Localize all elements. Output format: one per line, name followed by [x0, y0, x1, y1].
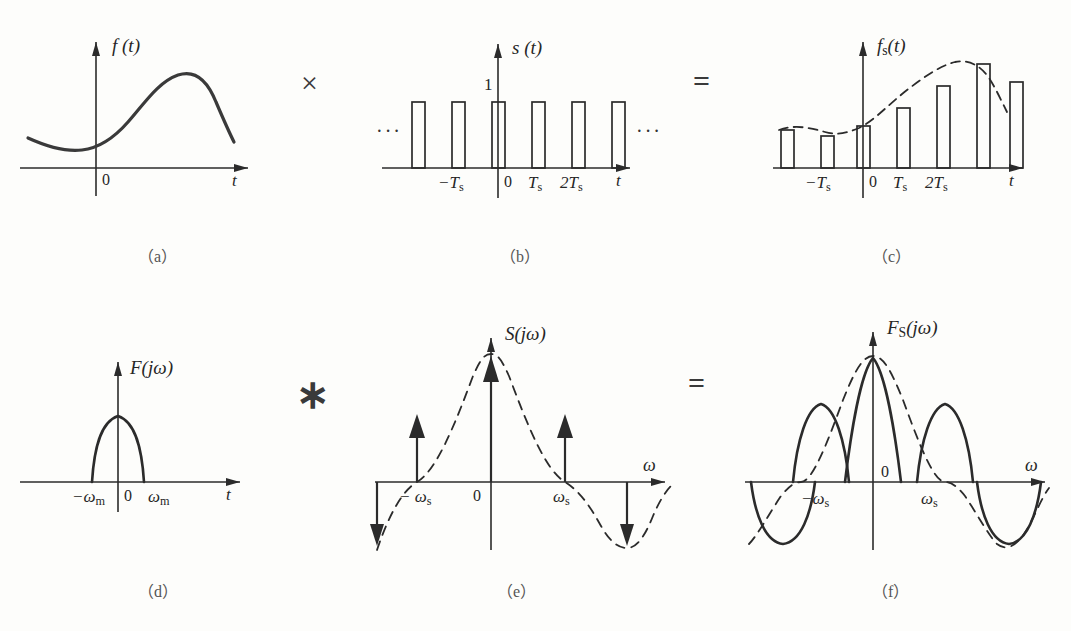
panel-f-spectrum-replicas — [751, 358, 1041, 544]
panel-c: fs(t) t −Ts 0 Ts 2Ts — [755, 20, 1055, 210]
panel-e-origin-label: 0 — [473, 488, 481, 504]
panel-b-signal-label: s (t) — [512, 38, 542, 57]
panel-b-tick-2ts-sub: s — [578, 180, 583, 194]
panel-b-tick-minus-ts-text: −T — [438, 173, 459, 192]
panel-e-impulses — [370, 356, 634, 546]
panel-c-x-axis-label: t — [1009, 172, 1014, 189]
panel-f-origin-label: 0 — [881, 464, 889, 480]
panel-c-tick-2ts: 2Ts — [925, 174, 948, 193]
panel-c-envelope — [779, 61, 1007, 133]
panel-b-origin-label: 0 — [504, 174, 512, 190]
panel-b-tick-ts: Ts — [528, 174, 542, 193]
panel-a: f (t) t 0 — [20, 20, 300, 210]
panel-f-tick-minus-ws-sub: s — [824, 496, 829, 510]
panel-c-sample-pulses — [781, 64, 1023, 168]
panel-b-x-axis-label: t — [616, 172, 621, 189]
caption-f: （f） — [872, 578, 909, 602]
panel-a-origin-label: 0 — [102, 172, 110, 188]
panel-d-tick-minus-wm: −ωm — [72, 488, 105, 507]
panel-c-tick-ts-sub: s — [902, 180, 907, 194]
operator-equals-bottom: = — [688, 368, 705, 398]
panel-c-tick-minus-ts-sub: s — [826, 180, 831, 194]
panel-a-signal-curve — [28, 74, 234, 151]
panel-e-signal-label-main: S — [505, 323, 515, 344]
panel-f-tick-ws-text: ω — [921, 489, 933, 508]
panel-d-tick-wm-text: ω — [148, 487, 160, 506]
panel-d-tick-wm: ωm — [148, 488, 170, 507]
panel-e-signal-label-tail: (jω) — [515, 323, 546, 344]
operator-multiply: × — [301, 68, 318, 98]
panel-b-tick-2ts-text: 2T — [560, 173, 578, 192]
caption-a: （a） — [138, 243, 177, 267]
panel-f-tick-minus-ws: −ωs — [801, 490, 829, 509]
panel-d: F(jω) t −ωm 0 ωm — [20, 330, 310, 530]
panel-a-x-axis-label: t — [232, 172, 237, 189]
panel-d-origin-label: 0 — [124, 488, 132, 504]
panel-b: s (t) 1 t ··· ··· −Ts 0 Ts 2Ts — [380, 20, 680, 210]
operator-equals-top: = — [693, 66, 710, 96]
panel-f-tick-ws: ωs — [921, 490, 938, 509]
panel-c-tick-2ts-sub: s — [943, 180, 948, 194]
panel-f-signal-label-main: F — [887, 317, 899, 338]
panel-d-tick-minus-wm-sub: m — [95, 494, 105, 508]
panel-e-tick-ws: ωs — [553, 488, 570, 507]
panel-a-axes — [20, 42, 248, 196]
panel-e: S(jω) ω − ωs 0 ωs — [375, 300, 695, 560]
panel-f-signal-label-tail: (jω) — [906, 317, 937, 338]
panel-b-ellipsis-left: ··· — [376, 120, 402, 143]
panel-a-signal-label: f (t) — [112, 36, 140, 55]
panel-f-tick-minus-ws-text: −ω — [801, 489, 824, 508]
panel-b-tick-minus-ts-sub: s — [459, 180, 464, 194]
panel-f-sinc-envelope — [749, 356, 1049, 547]
panel-e-tick-minus-ws-sub: s — [427, 494, 432, 508]
panel-b-ellipsis-right: ··· — [636, 120, 662, 143]
panel-b-tick-minus-ts: −Ts — [438, 174, 464, 193]
panel-c-origin-label: 0 — [869, 174, 877, 190]
panel-e-tick-ws-text: ω — [553, 487, 565, 506]
panel-d-signal-label-tail: (jω) — [142, 357, 173, 378]
panel-e-tick-minus-ws-text: − ω — [399, 487, 427, 506]
panel-e-x-axis-label: ω — [643, 456, 656, 474]
panel-d-signal-label: F(jω) — [130, 358, 173, 377]
caption-e: （e） — [497, 578, 536, 602]
panel-b-tick-ts-sub: s — [537, 180, 542, 194]
caption-c: （c） — [872, 243, 911, 267]
caption-d: （d） — [138, 578, 178, 602]
caption-b: （b） — [500, 243, 540, 267]
panel-f: FS(jω) ω 0 −ωs ωs — [745, 300, 1065, 560]
panel-c-signal-label-tail: (t) — [888, 35, 906, 56]
panel-b-tick-2ts: 2Ts — [560, 174, 583, 193]
panel-c-tick-minus-ts-text: −T — [805, 173, 826, 192]
panel-e-tick-minus-ws: − ωs — [399, 488, 432, 507]
operator-convolve: ∗ — [296, 375, 330, 415]
panel-f-x-axis-label: ω — [1025, 456, 1038, 474]
panel-e-signal-label: S(jω) — [505, 324, 546, 343]
panel-f-tick-ws-sub: s — [933, 496, 938, 510]
panel-b-pulse-train — [412, 102, 625, 168]
sampling-theorem-figure: f (t) t 0 （a） × s (t) 1 t — [0, 0, 1071, 631]
panel-a-plot — [20, 20, 300, 210]
panel-c-tick-2ts-text: 2T — [925, 173, 943, 192]
panel-f-signal-label: FS(jω) — [887, 318, 938, 340]
panel-e-tick-ws-sub: s — [565, 494, 570, 508]
panel-d-tick-wm-sub: m — [160, 494, 170, 508]
panel-e-axes — [375, 338, 665, 550]
panel-d-tick-minus-wm-text: −ω — [72, 487, 95, 506]
panel-d-signal-label-main: F — [130, 357, 142, 378]
panel-b-amplitude-label: 1 — [484, 76, 493, 93]
panel-d-x-axis-label: t — [226, 486, 231, 503]
panel-c-tick-ts: Ts — [893, 174, 907, 193]
panel-c-tick-minus-ts: −Ts — [805, 174, 831, 193]
panel-c-signal-label: fs(t) — [877, 36, 906, 58]
